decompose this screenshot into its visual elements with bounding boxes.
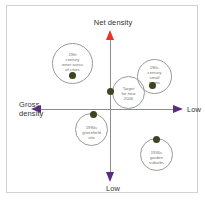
- data-point-target-new: [107, 88, 114, 95]
- horizontal-axis-line: [39, 109, 181, 110]
- arrow-up-icon: [106, 30, 114, 40]
- arrow-down-icon: [106, 172, 114, 182]
- bubble-label-target-new: Target for new 2006: [113, 86, 144, 101]
- diagram-frame: Net density Low Gross density Low 19th c…: [6, 5, 198, 193]
- data-point-greenfield-site: [90, 111, 97, 118]
- axis-label-bottom: Low: [93, 184, 133, 193]
- bubble-greenfield-site: 1990s greenfield site: [75, 113, 108, 146]
- data-point-small-towns: [149, 82, 156, 89]
- diagram-canvas: Net density Low Gross density Low 19th c…: [0, 0, 205, 200]
- bubble-label-inner-areas: 19th century inner areas of cities: [53, 52, 92, 72]
- data-point-garden-suburbs: [153, 136, 160, 143]
- axis-label-top: Net density: [85, 18, 141, 27]
- data-point-inner-areas: [69, 72, 76, 79]
- axis-label-left: Gross density: [19, 100, 53, 118]
- bubble-label-greenfield-site: 1990s greenfield site: [76, 125, 107, 140]
- axis-label-right: Low: [187, 105, 205, 114]
- arrow-right-icon: [173, 105, 183, 113]
- bubble-target-new: Target for new 2006: [112, 76, 145, 109]
- bubble-label-garden-suburbs: 1930s garden suburbs: [141, 150, 172, 165]
